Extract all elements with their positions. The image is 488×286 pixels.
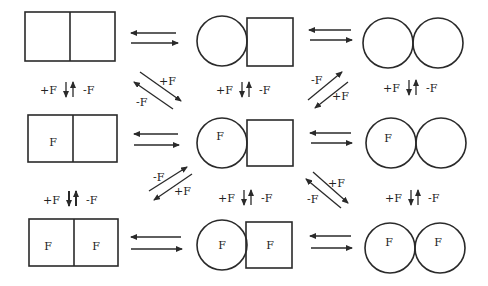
svg-text:-F: -F (428, 192, 440, 205)
svg-text:+F: +F (216, 84, 233, 97)
diagonal-arrows-bottom-right: +F -F (306, 172, 348, 208)
svg-text:-F: -F (307, 193, 319, 206)
svg-text:-F: -F (261, 192, 273, 205)
svg-text:+F: +F (328, 177, 345, 190)
svg-text:-F: -F (86, 194, 98, 207)
svg-text:F: F (44, 240, 52, 253)
diagonal-arrows-bottom-left: -F +F (149, 167, 192, 200)
svg-text:F: F (218, 239, 226, 252)
diagonal-arrows-top-left: +F -F (134, 72, 181, 109)
svg-text:+F: +F (43, 194, 60, 207)
svg-text:F: F (49, 136, 57, 149)
svg-text:+F: +F (383, 82, 400, 95)
svg-text:-F: -F (83, 84, 95, 97)
equilibrium-arrows-r2-left (134, 134, 179, 145)
svg-text:+F: +F (332, 90, 349, 103)
state-r3-c3: F F (365, 223, 465, 273)
svg-text:+F: +F (159, 75, 176, 88)
state-r3-c2: F F (197, 220, 292, 270)
svg-text:-F: -F (259, 84, 271, 97)
state-r1-c1 (25, 12, 115, 61)
state-r2-c2: F (197, 118, 293, 168)
vertical-transition-c1-r23: +F -F (43, 191, 98, 207)
vertical-transition-c3-r12: +F -F (383, 80, 438, 95)
equilibrium-arrows-r1-left (131, 33, 178, 43)
svg-text:-F: -F (426, 82, 438, 95)
equilibrium-arrows-r3-left (131, 237, 182, 249)
vertical-transition-c1-r12: +F -F (40, 82, 95, 97)
svg-text:F: F (384, 132, 392, 145)
svg-text:F: F (385, 236, 393, 249)
svg-text:-F: -F (311, 74, 323, 87)
state-r2-c3: F (366, 118, 466, 168)
svg-text:-F: -F (153, 171, 165, 184)
state-r2-c1: F (28, 115, 117, 162)
reaction-scheme-diagram: +F -F +F -F +F -F +F -F -F +F F (0, 0, 488, 286)
equilibrium-arrows-r2-right (310, 133, 352, 143)
vertical-transition-c2-r23: +F -F (218, 190, 273, 205)
equilibrium-arrows-r1-right (309, 30, 352, 40)
svg-text:F: F (266, 239, 274, 252)
svg-text:F: F (434, 236, 442, 249)
svg-text:+F: +F (218, 192, 235, 205)
svg-text:-F: -F (136, 96, 148, 109)
svg-text:+F: +F (385, 192, 402, 205)
diagonal-arrows-top-right: -F +F (308, 72, 349, 108)
svg-text:+F: +F (40, 84, 57, 97)
svg-text:+F: +F (174, 185, 191, 198)
equilibrium-arrows-r3-right (310, 236, 352, 248)
state-r1-c3 (363, 18, 463, 68)
vertical-transition-c3-r23: +F -F (385, 190, 440, 205)
svg-text:F: F (92, 240, 100, 253)
svg-text:F: F (216, 130, 224, 143)
vertical-transition-c2-r12: +F -F (216, 82, 271, 97)
state-r1-c2 (197, 16, 293, 66)
state-r3-c1: F F (29, 219, 118, 266)
